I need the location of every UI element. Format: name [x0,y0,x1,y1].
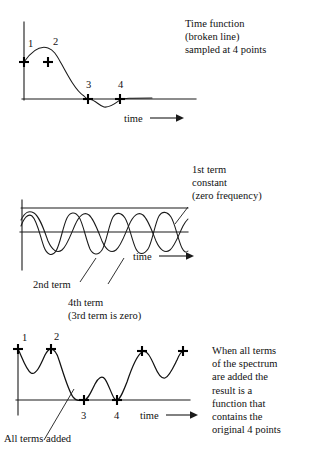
sample-marker-5-bottom [137,346,147,356]
sample-label-1: 1 [28,38,33,49]
sample-markers-bottom [13,344,188,405]
time-axis-label-top: time [124,113,143,124]
sample-marker-2-bottom [46,344,56,354]
sample-markers-top [19,57,125,104]
fourth-term-wave [21,212,188,254]
caption-time-function: Time function (broken line) sampled at 4… [185,17,305,57]
sample-label-3-bottom: 3 [81,410,86,421]
time-axis-label-middle: time [133,251,152,262]
label-fourth-term: 4th term (3rd term is zero) [68,296,141,322]
leader-second-term [80,258,96,282]
sample-marker-3 [83,94,93,104]
time-arrow-bottom [166,411,198,419]
time-axis-label-bottom: time [140,410,159,421]
caption-first-term: 1st term constant (zero frequency) [192,163,307,203]
time-arrow-middle [159,252,194,260]
sample-marker-1 [19,57,29,67]
caption-all-terms-added: When all terms of the spectrum are added… [212,344,310,436]
sample-label-1-bottom: 1 [22,332,27,343]
figure-root: 1 2 3 4 time time [0,0,310,461]
summed-waveform [18,349,183,400]
sample-label-4: 4 [118,79,124,90]
label-all-terms-added: All terms added [4,432,71,445]
sample-label-3: 3 [86,79,91,90]
time-arrow-top [150,114,184,122]
sample-marker-1-bottom [13,344,23,354]
sample-label-4-bottom: 4 [114,410,120,421]
sample-marker-3-bottom [79,395,89,405]
label-second-term: 2nd term [33,278,71,291]
leader-fourth-term [108,258,124,284]
sample-label-2: 2 [53,36,58,47]
sample-label-2-bottom: 2 [54,331,59,342]
sample-marker-2 [43,57,53,67]
